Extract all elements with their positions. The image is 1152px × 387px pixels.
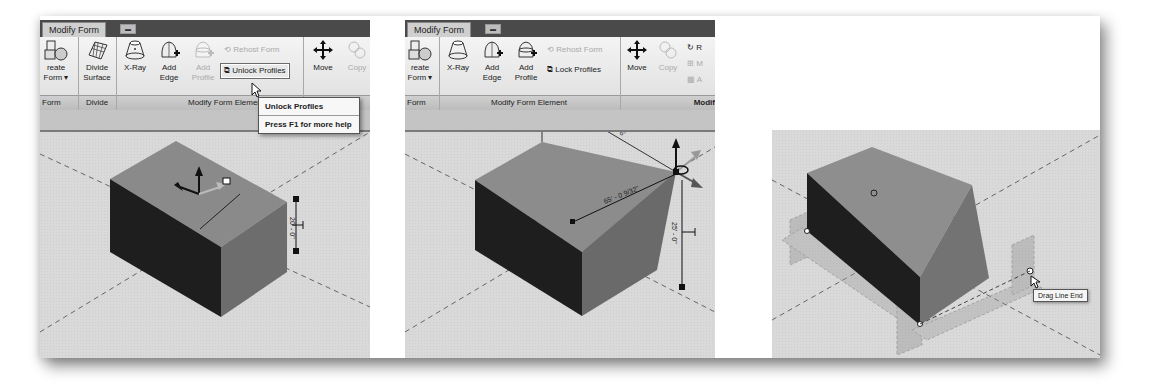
- ribbon-minimize-button[interactable]: ▬: [485, 24, 501, 34]
- lock-profiles-button[interactable]: ⧉ Lock Profiles: [547, 64, 601, 76]
- unlock-profiles-tooltip: Unlock Profiles Press F1 for more help: [258, 97, 360, 134]
- divide-surface-icon: [85, 39, 109, 61]
- create-form-icon: [408, 39, 432, 61]
- rehost-form-button[interactable]: ⟲ Rehost Form: [547, 44, 602, 56]
- ribbon-tab-bar: Modify Form ▬: [40, 20, 370, 37]
- group-separator: [116, 37, 117, 110]
- rotate-icon: ↻: [687, 43, 696, 52]
- tab-modify-form[interactable]: Modify Form: [42, 22, 106, 37]
- group-label-divide: Divide: [78, 96, 116, 110]
- group-label-modify: Modif: [675, 96, 715, 110]
- copy-button[interactable]: Copy: [340, 39, 370, 73]
- create-form-icon: [44, 39, 68, 61]
- create-form-button[interactable]: reate Form ▾: [40, 39, 76, 83]
- lock-icon: [223, 178, 230, 184]
- svg-text:6': 6': [619, 132, 627, 137]
- add-edge-icon: [157, 39, 181, 61]
- ribbon-options-bar: [405, 110, 715, 130]
- move-icon: [625, 39, 649, 61]
- move-icon: [311, 39, 335, 61]
- mirror-icon: ⊞: [687, 59, 696, 68]
- 3d-viewport[interactable]: 6' 65' - 0 9/32" 25' - 0": [405, 130, 715, 358]
- transform-gizmo-icon[interactable]: [672, 138, 703, 188]
- drag-line-end-tooltip: Drag Line End: [1033, 289, 1088, 302]
- array-button[interactable]: ▦ A: [687, 74, 702, 86]
- panel-unlocked: Modify Form ▬ Form Modify Form Element M…: [405, 20, 715, 358]
- move-button[interactable]: Move: [621, 39, 653, 73]
- mouse-cursor-icon: [251, 82, 263, 98]
- copy-icon: [345, 39, 369, 61]
- divide-surface-button[interactable]: Divide Surface: [78, 39, 116, 83]
- height-dimension[interactable]: 20' - 0": [289, 196, 303, 254]
- copy-icon: [656, 39, 680, 61]
- dimension-endpoint[interactable]: [679, 284, 685, 290]
- add-edge-button[interactable]: Add Edge: [475, 39, 509, 83]
- unlock-profiles-icon: ⧉: [224, 66, 232, 75]
- xray-icon: [123, 39, 147, 61]
- add-profile-icon: [514, 39, 538, 61]
- add-profile-button[interactable]: Add Profile: [509, 39, 543, 83]
- rehost-icon: ⟲: [224, 45, 233, 54]
- lock-profiles-icon: ⧉: [547, 65, 555, 74]
- panel-drag-line-end: Drag Line End: [772, 130, 1100, 358]
- create-form-button[interactable]: reate Form ▾: [405, 39, 439, 83]
- group-label-form: Form: [405, 96, 441, 110]
- vertex-control-point[interactable]: [805, 229, 810, 234]
- add-edge-icon: [480, 39, 504, 61]
- svg-text:25' - 0": 25' - 0": [671, 222, 678, 244]
- 3d-viewport[interactable]: [772, 130, 1100, 358]
- rehost-icon: ⟲: [547, 45, 556, 54]
- mirror-button[interactable]: ⊞ M: [687, 58, 703, 70]
- svg-text:20' - 0": 20' - 0": [289, 217, 296, 239]
- rotate-button[interactable]: ↻ R: [687, 42, 702, 54]
- add-edge-button[interactable]: Add Edge: [152, 39, 186, 83]
- tapered-mass-model[interactable]: 6' 65' - 0 9/32" 25' - 0": [405, 132, 715, 358]
- ribbon-group-labels: Form Modify Form Element Modif: [405, 95, 715, 111]
- xray-icon: [446, 39, 470, 61]
- group-label-form: Form: [40, 96, 80, 110]
- ribbon-minimize-button[interactable]: ▬: [120, 24, 136, 34]
- xray-button[interactable]: X-Ray: [441, 39, 475, 73]
- unlock-profiles-button[interactable]: ⧉ Unlock Profiles: [220, 63, 290, 79]
- add-profile-button[interactable]: Add Profile: [186, 39, 220, 83]
- dimension-endpoint[interactable]: [570, 219, 575, 224]
- copy-button[interactable]: Copy: [653, 39, 683, 73]
- box-mass-model[interactable]: 20' - 0": [40, 132, 370, 358]
- ribbon-tab-bar: Modify Form ▬: [405, 20, 715, 37]
- move-button[interactable]: Move: [306, 39, 340, 73]
- group-separator: [439, 37, 440, 110]
- reshaped-mass-model[interactable]: [772, 130, 1100, 358]
- add-profile-icon: [191, 39, 215, 61]
- tab-modify-form[interactable]: Modify Form: [407, 22, 471, 37]
- rehost-form-button[interactable]: ⟲ Rehost Form: [224, 44, 279, 56]
- xray-button[interactable]: X-Ray: [118, 39, 152, 73]
- 3d-viewport[interactable]: 20' - 0": [40, 130, 370, 358]
- panel-before: Modify Form ▬ Form Divide Modify Form El…: [40, 20, 370, 358]
- array-icon: ▦: [687, 75, 697, 84]
- group-label-modify-form-element: Modify Form Element: [439, 96, 619, 110]
